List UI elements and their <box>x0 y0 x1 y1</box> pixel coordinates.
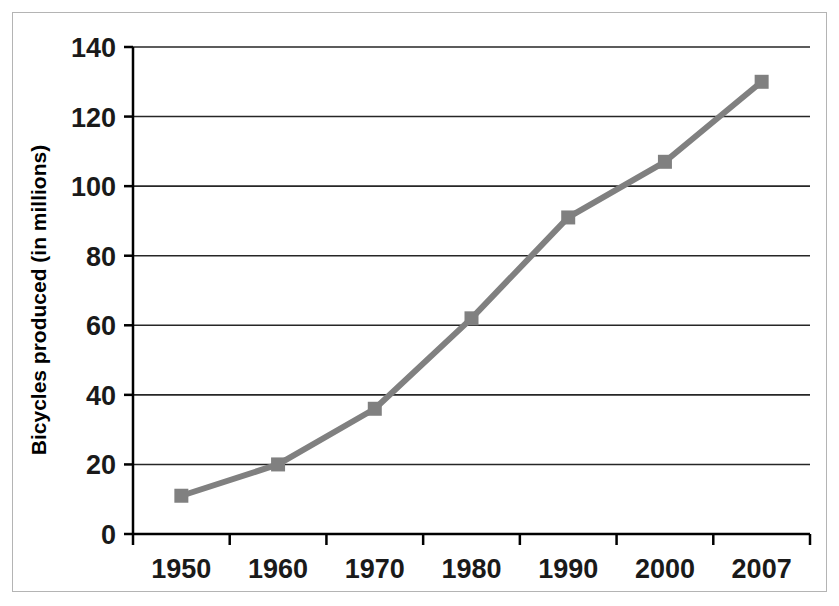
y-tick-label-100: 100 <box>71 172 116 202</box>
data-point-1990 <box>561 210 575 224</box>
data-marker-group <box>174 75 768 503</box>
data-point-1980 <box>465 311 479 325</box>
gridline-group <box>133 47 810 464</box>
data-series-line <box>181 82 761 496</box>
chart-canvas: 020406080100120140 195019601970198019902… <box>0 0 839 606</box>
y-tick-group <box>124 47 133 534</box>
data-point-1960 <box>271 457 285 471</box>
y-tick-label-20: 20 <box>86 450 116 480</box>
x-tick-label-2000: 2000 <box>635 554 695 584</box>
chart-page: 020406080100120140 195019601970198019902… <box>0 0 839 606</box>
y-tick-label-group: 020406080100120140 <box>71 33 116 550</box>
x-tick-label-1950: 1950 <box>151 554 211 584</box>
x-tick-label-2007: 2007 <box>732 554 792 584</box>
y-tick-label-40: 40 <box>86 381 116 411</box>
x-tick-label-1990: 1990 <box>538 554 598 584</box>
data-point-2000 <box>658 155 672 169</box>
data-point-1950 <box>174 489 188 503</box>
y-tick-label-120: 120 <box>71 103 116 133</box>
x-tick-label-1960: 1960 <box>248 554 308 584</box>
y-tick-label-140: 140 <box>71 33 116 63</box>
y-tick-label-80: 80 <box>86 242 116 272</box>
x-tick-label-group: 1950196019701980199020002007 <box>151 554 791 584</box>
y-tick-label-60: 60 <box>86 311 116 341</box>
data-point-2007 <box>755 75 769 89</box>
x-tick-label-1980: 1980 <box>441 554 501 584</box>
data-point-1970 <box>368 402 382 416</box>
x-tick-group <box>133 534 810 545</box>
y-axis-title: Bicycles produced (in millions) <box>27 145 50 455</box>
y-tick-label-0: 0 <box>101 520 116 550</box>
line-chart: 020406080100120140 195019601970198019902… <box>0 0 839 606</box>
x-tick-label-1970: 1970 <box>345 554 405 584</box>
